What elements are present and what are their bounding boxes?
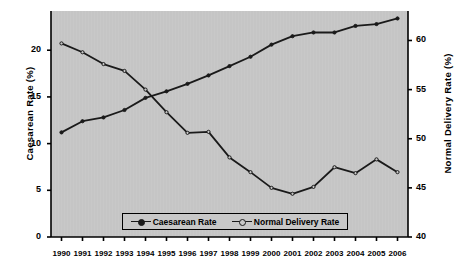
series-point-1	[102, 116, 105, 119]
series-point-2	[396, 171, 399, 174]
series-point-2	[81, 51, 84, 54]
series-point-2	[165, 111, 168, 114]
legend-entry-2: Normal Delivery Rate	[232, 217, 340, 227]
series-point-1	[207, 74, 210, 77]
series-point-2	[60, 42, 63, 45]
series-point-1	[396, 17, 399, 20]
chart-legend: Caesarean RateNormal Delivery Rate	[122, 213, 348, 230]
series-point-2	[207, 130, 210, 133]
y-axis-left-tick-label: 15	[19, 91, 41, 101]
x-axis-tick-label: 2006	[383, 249, 413, 258]
series-point-2	[102, 62, 105, 65]
series-point-1	[165, 90, 168, 93]
series-point-1	[60, 131, 63, 134]
legend-entry-1: Caesarean Rate	[131, 217, 217, 227]
series-point-2	[123, 69, 126, 72]
y-axis-left-tick-label: 20	[19, 44, 41, 54]
y-axis-right-title: Normal Delivery Rate (%)	[442, 19, 453, 209]
series-point-2	[291, 192, 294, 195]
series-point-2	[249, 171, 252, 174]
legend-marker-icon	[131, 218, 151, 226]
plot-area-background	[51, 11, 408, 237]
series-point-2	[333, 166, 336, 169]
chart-figure: Caesarean Rate (%) Normal Delivery Rate …	[0, 0, 459, 273]
y-axis-right-tick-label: 60	[416, 34, 438, 44]
legend-label: Normal Delivery Rate	[254, 217, 340, 227]
series-point-1	[375, 22, 378, 25]
series-point-1	[291, 35, 294, 38]
series-point-2	[354, 172, 357, 175]
y-axis-right-tick-label: 45	[416, 182, 438, 192]
series-point-1	[312, 31, 315, 34]
series-point-2	[375, 158, 378, 161]
series-point-1	[144, 96, 147, 99]
chart-canvas	[0, 0, 459, 273]
series-point-1	[354, 24, 357, 27]
series-point-1	[81, 120, 84, 123]
series-point-1	[228, 65, 231, 68]
y-axis-left-tick-label: 5	[19, 184, 41, 194]
series-point-1	[123, 108, 126, 111]
y-axis-right-tick-label: 50	[416, 133, 438, 143]
series-point-1	[270, 43, 273, 46]
series-point-2	[186, 131, 189, 134]
y-axis-right-tick-label: 40	[416, 231, 438, 241]
y-axis-left-title: Caesarean Rate (%)	[24, 39, 35, 189]
y-axis-left-tick-label: 10	[19, 138, 41, 148]
series-point-2	[312, 185, 315, 188]
series-point-2	[228, 156, 231, 159]
y-axis-right-tick-label: 55	[416, 84, 438, 94]
series-point-1	[186, 82, 189, 85]
series-point-1	[249, 55, 252, 58]
y-axis-left-tick-label: 0	[19, 231, 41, 241]
series-point-2	[144, 88, 147, 91]
legend-marker-icon	[232, 218, 252, 226]
series-point-1	[333, 31, 336, 34]
legend-label: Caesarean Rate	[153, 217, 217, 227]
series-point-2	[270, 186, 273, 189]
